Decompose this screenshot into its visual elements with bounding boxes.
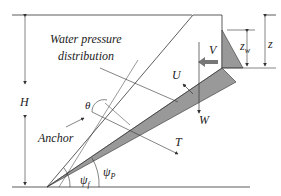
distribution-label: distribution [58,50,114,62]
water-pressure-label: Water pressure [50,33,122,45]
water-pressure-leader [100,68,178,102]
z-label: z [268,38,273,50]
failure-plane [47,68,222,187]
zw-label: zw [240,40,250,55]
V-label: V [209,44,216,56]
U-label: U [172,69,181,81]
theta-arc [92,100,107,112]
slope-diagram [0,0,281,196]
anchor-leader [66,118,84,127]
psi-p-label: ψP [103,166,115,181]
H-label: H [20,96,29,108]
W-label: W [199,114,209,126]
T-label: T [175,136,182,148]
psi-p-arc [92,158,99,187]
normal-line [59,60,138,187]
theta-label: θ [85,100,90,111]
anchor-label: Anchor [38,132,73,144]
V-force-arrow [198,57,218,67]
psi-f-label: ψf [80,174,90,189]
